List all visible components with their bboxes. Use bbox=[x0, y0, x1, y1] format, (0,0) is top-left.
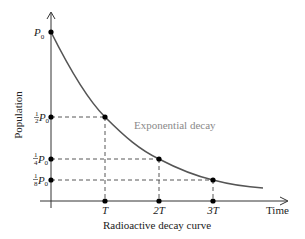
svg-text:0: 0 bbox=[46, 117, 50, 125]
x-tick-3T: 3T bbox=[206, 204, 220, 216]
curve-points bbox=[48, 29, 215, 182]
curve-annotation: Exponential decay bbox=[134, 119, 216, 131]
y-tick-half-p0: 1 2 P 0 bbox=[34, 110, 50, 125]
y-tick-quarter-p0: 1 4 P 0 bbox=[33, 151, 49, 167]
decay-chart: P0 1 2 P 0 1 4 P 0 1 8 P 0 T 2T 3T Time bbox=[0, 0, 305, 239]
y-tick-p0: P0 bbox=[33, 26, 45, 41]
y-axis-label: Population bbox=[12, 91, 24, 139]
chart-caption: Radioactive decay curve bbox=[103, 219, 211, 231]
y-tick-eighth-p0: 1 8 P 0 bbox=[33, 172, 49, 188]
svg-text:0: 0 bbox=[45, 180, 49, 188]
x-tick-2T: 2T bbox=[153, 204, 166, 216]
svg-text:0: 0 bbox=[45, 159, 49, 167]
x-axis-label: Time bbox=[266, 204, 289, 216]
x-tick-T: T bbox=[102, 204, 109, 216]
exponential-decay-curve bbox=[51, 32, 263, 188]
